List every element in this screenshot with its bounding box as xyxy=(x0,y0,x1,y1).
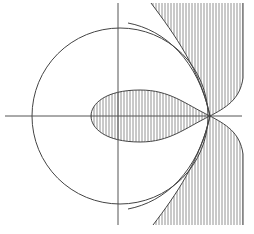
upper-right-hatching xyxy=(150,0,243,120)
diagram xyxy=(0,0,254,234)
lower-right-hatching xyxy=(150,112,243,230)
